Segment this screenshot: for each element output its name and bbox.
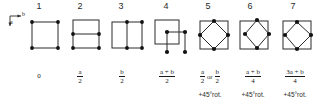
fraction-4: a + b 2 [159,68,175,85]
or-connector-5: or [205,73,214,81]
fraction-6: a + b 4 [245,68,261,85]
cell-diagram-5 [193,18,237,60]
axis-label-a: a [10,19,13,25]
column-header-2: 2 [65,1,95,11]
axis-label-b: b [22,11,25,17]
cell-diagram-2 [65,18,109,60]
cell-diagram-7 [278,18,322,60]
fraction-numerator-6: a + b [245,68,261,77]
fraction-numerator-4: a + b [159,68,175,77]
column-header-3: 3 [106,1,136,11]
fraction-denominator-2: 2 [77,77,82,85]
fraction-denominator-3: 2 [119,77,125,85]
fraction-5b: b 2 [215,68,221,85]
column-header-7: 7 [278,1,308,11]
fraction-denominator-5b: 2 [215,77,221,85]
column-header-5: 5 [193,1,223,11]
cell-diagram-4 [151,18,195,60]
fraction-numerator-2: a [77,68,82,77]
lattice-translation-figure: b a 1 2 3 4 5 6 7 [0,0,326,108]
fraction-2: a 2 [77,68,82,85]
translation-value-1: 0 [37,72,41,80]
cell-diagram-1 [24,18,68,60]
fraction-numerator-5b: b [215,68,221,77]
cell-diagram-6 [235,18,279,60]
fraction-denominator-4: 2 [159,77,175,85]
translation-label-7: 3a + b 4 [266,68,324,85]
fraction-3: b 2 [119,68,125,85]
column-header-4: 4 [151,1,181,11]
fraction-numerator-7: 3a + b [285,68,305,77]
cell-diagram-3 [106,18,150,60]
fraction-7: 3a + b 4 [285,68,305,85]
fraction-numerator-3: b [119,68,125,77]
column-header-6: 6 [235,1,265,11]
column-header-1: 1 [24,1,54,11]
fraction-denominator-6: 4 [245,77,261,85]
rotation-note-7: +45°rot. [266,91,324,99]
fraction-denominator-7: 4 [285,77,305,85]
